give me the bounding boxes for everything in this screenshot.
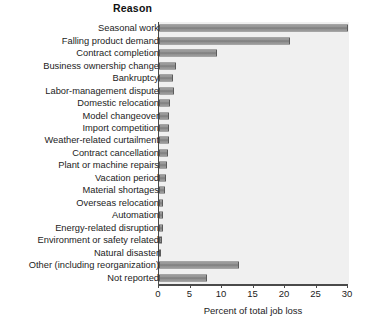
bar: [159, 212, 163, 219]
bar-track: [159, 209, 349, 221]
bar-track: [159, 134, 349, 146]
x-axis-title: Percent of total job loss: [158, 305, 348, 316]
bar-row: Environment or safety related: [0, 234, 365, 246]
bar: [159, 100, 170, 107]
bar: [159, 25, 348, 32]
x-tick-label: 20: [279, 288, 290, 299]
bar: [159, 224, 163, 231]
x-tick-label: 5: [187, 288, 192, 299]
bar-row: Weather-related curtailment: [0, 134, 365, 146]
bar-category-label: Plant or machine repairs: [58, 160, 159, 170]
bar: [159, 62, 176, 69]
bar-track: [159, 84, 349, 96]
bar-row: Business ownership change: [0, 59, 365, 71]
bar-category-label: Domestic relocation: [77, 98, 159, 108]
bar-row: Material shortages: [0, 184, 365, 196]
bar: [159, 137, 169, 144]
bar-track: [159, 234, 349, 246]
bar-category-label: Contract completion: [76, 48, 159, 58]
bar: [159, 124, 169, 131]
bar-row: Other (including reorganization): [0, 259, 365, 271]
bar-row: Falling product demand: [0, 34, 365, 46]
bar-track: [159, 72, 349, 84]
bar-category-label: Overseas relocation: [76, 198, 159, 208]
bar: [159, 237, 162, 244]
bar-row: Model changeover: [0, 109, 365, 121]
bar-category-label: Vacation period: [95, 173, 159, 183]
bar: [159, 262, 239, 269]
bar-row: Contract completion: [0, 47, 365, 59]
bar-category-label: Other (including reorganization): [29, 260, 159, 270]
bar-row: Import competition: [0, 122, 365, 134]
bar-track: [159, 159, 349, 171]
bar: [159, 187, 165, 194]
bar-category-label: Import competition: [83, 123, 159, 133]
bar-track: [159, 222, 349, 234]
bar-row: Bankruptcy: [0, 72, 365, 84]
bar-track: [159, 47, 349, 59]
bar-category-label: Business ownership change: [43, 61, 159, 71]
bar-track: [159, 59, 349, 71]
bar-category-label: Falling product demand: [62, 36, 159, 46]
bar: [159, 174, 166, 181]
chart-title: Reason: [113, 2, 152, 14]
bar-row: Contract cancellation: [0, 147, 365, 159]
bar-category-label: Automation: [112, 210, 159, 220]
bar-category-label: Model changeover: [83, 111, 160, 121]
bar: [159, 199, 163, 206]
bar-row: Vacation period: [0, 172, 365, 184]
bar: [159, 37, 290, 44]
bar-category-label: Bankruptcy: [112, 73, 159, 83]
bar-track: [159, 259, 349, 271]
bar: [159, 87, 174, 94]
x-tick-label: 15: [247, 288, 258, 299]
bar-track: [159, 246, 349, 258]
x-tick-label: 30: [342, 288, 353, 299]
bar-category-label: Labor-management dispute: [45, 86, 159, 96]
bar-track: [159, 147, 349, 159]
bar: [159, 75, 173, 82]
x-tick-label: 0: [155, 288, 160, 299]
bar-rows: Seasonal workFalling product demandContr…: [0, 22, 365, 284]
bar-chart: Reason Seasonal workFalling product dema…: [0, 0, 365, 334]
bar: [159, 274, 207, 281]
bar-track: [159, 34, 349, 46]
bar-track: [159, 122, 349, 134]
bar-category-label: Weather-related curtailment: [44, 135, 159, 145]
bar: [159, 112, 169, 119]
bar-track: [159, 197, 349, 209]
bar-track: [159, 22, 349, 34]
bar-category-label: Material shortages: [83, 185, 159, 195]
bar-row: Overseas relocation: [0, 197, 365, 209]
bar-category-label: Environment or safety related: [38, 235, 159, 245]
bar-category-label: Seasonal work: [98, 23, 159, 33]
bar-track: [159, 109, 349, 121]
bar: [159, 50, 217, 57]
bar: [159, 149, 168, 156]
bar-track: [159, 271, 349, 283]
bar-category-label: Not reported: [107, 273, 159, 283]
bar-category-label: Contract cancellation: [72, 148, 159, 158]
bar-row: Domestic relocation: [0, 97, 365, 109]
bar-row: Energy-related disruption: [0, 222, 365, 234]
bar-category-label: Energy-related disruption: [55, 223, 159, 233]
x-tick-label: 10: [216, 288, 227, 299]
bar: [159, 249, 161, 256]
bar-row: Natural disaster: [0, 246, 365, 258]
bar-row: Labor-management dispute: [0, 84, 365, 96]
bar-row: Not reported: [0, 271, 365, 283]
bar-track: [159, 172, 349, 184]
x-tick-label: 25: [310, 288, 321, 299]
bar-row: Automation: [0, 209, 365, 221]
bar-category-label: Natural disaster: [94, 248, 159, 258]
bar: [159, 162, 167, 169]
bar-track: [159, 97, 349, 109]
bar-row: Seasonal work: [0, 22, 365, 34]
bar-track: [159, 184, 349, 196]
bar-row: Plant or machine repairs: [0, 159, 365, 171]
